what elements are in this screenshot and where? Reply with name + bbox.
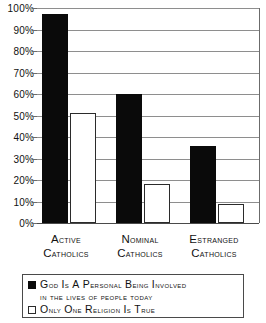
bar-chart: 0%10%20%30%40%50%60%70%80%90%100% Active… xyxy=(0,0,266,323)
y-axis: 0%10%20%30%40%50%60%70%80%90%100% xyxy=(0,0,36,232)
legend-label-line2: in the lives of people today xyxy=(28,291,238,303)
filled-square-icon xyxy=(28,281,36,289)
y-tick-label: 10% xyxy=(13,196,34,207)
y-tick-label: 70% xyxy=(13,67,34,78)
x-category-label: ActiveCatholics xyxy=(29,233,103,260)
bars-layer xyxy=(37,8,259,223)
x-category-label: NominalCatholics xyxy=(103,233,177,260)
legend-label-only-one-religion: Only one religion is true xyxy=(40,303,155,316)
y-tick-label: 100% xyxy=(8,3,34,14)
legend-label-line1: God is a personal being involved xyxy=(40,278,187,291)
y-tick-label: 40% xyxy=(13,132,34,143)
legend-item-god-personal-being: God is a personal being involved xyxy=(28,278,238,291)
y-tick-label: 20% xyxy=(13,175,34,186)
x-category-label: EstrangedCatholics xyxy=(177,233,251,260)
y-tick-mark xyxy=(32,223,37,224)
y-tick-label: 60% xyxy=(13,89,34,100)
x-axis-line xyxy=(37,223,259,224)
plot-area xyxy=(37,8,260,223)
bar xyxy=(116,94,142,223)
x-axis-category-labels: ActiveCatholicsNominalCatholicsEstranged… xyxy=(37,231,259,267)
y-tick-label: 90% xyxy=(13,24,34,35)
bar xyxy=(144,184,170,223)
bar xyxy=(42,14,68,223)
bar xyxy=(70,113,96,223)
y-tick-label: 50% xyxy=(13,110,34,121)
bar xyxy=(218,204,244,223)
y-tick-label: 80% xyxy=(13,46,34,57)
plot-wrapper: 0%10%20%30%40%50%60%70%80%90%100% xyxy=(0,0,266,232)
y-tick-label: 30% xyxy=(13,153,34,164)
bar xyxy=(190,146,216,223)
legend-item-only-one-religion: Only one religion is true xyxy=(28,303,238,316)
hollow-square-icon xyxy=(28,306,36,314)
chart-legend: God is a personal being involved in the … xyxy=(22,274,244,318)
